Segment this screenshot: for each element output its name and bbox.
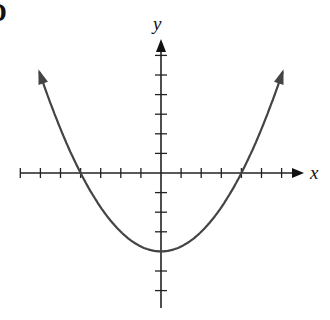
y-axis-label: y bbox=[151, 13, 162, 34]
parabola-chart: x y bbox=[0, 0, 330, 320]
y-axis-arrow-icon bbox=[156, 39, 166, 52]
curve-arrow-icon bbox=[274, 69, 284, 85]
x-axis-label: x bbox=[309, 162, 319, 183]
x-axis-arrow-icon bbox=[292, 168, 304, 178]
curve-arrow-icon bbox=[38, 69, 48, 85]
